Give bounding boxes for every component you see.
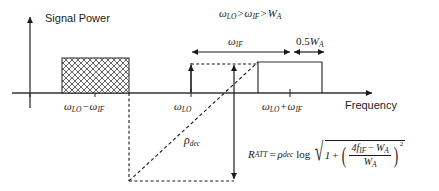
usb-omega-lo-sub: LO [270,105,280,114]
num-w: W [376,142,384,153]
lsb-minus: − [81,100,89,112]
slope-line [129,62,258,181]
fraction-numerator: 4fIF−WA [349,142,390,156]
condition-w: W [268,7,277,19]
formula-log: log [293,148,311,160]
condition-note: ωLO>ωIF>WA [219,8,281,20]
omega-if-span-sub: IF [236,40,243,49]
omega-if-span-base: ω [228,35,236,47]
lsb-omega-if-sub: IF [97,105,104,114]
half-wa-prefix: 0.5 [296,35,310,47]
open-paren: ( [342,147,346,164]
tick-label-lo-center: ωLO [174,101,191,113]
formula-squared-group: ( 4fIF−WA WA ) 2 [340,142,403,168]
lsb-omega-lo: ω [64,100,72,112]
attenuation-formula: RATT=ρdeclog √ 1+ ( 4fIF−WA WA ) 2 [248,140,405,168]
condition-gt-2: > [259,7,267,19]
den-w: W [364,156,372,167]
formula-fraction: 4fIF−WA WA [349,142,390,168]
condition-omega-lo-sub: LO [227,12,237,21]
slope-label: ρdec [184,134,200,147]
formula-rho-sub: dec [283,150,293,159]
num-w-sub: A [384,146,389,155]
formula-exponent: 2 [400,140,404,148]
usb-omega-lo: ω [262,100,270,112]
close-paren: ) [394,147,398,164]
condition-w-sub: A [277,12,282,21]
num-minus: − [366,142,376,153]
formula-equals: = [267,148,277,160]
formula-plus: + [330,149,340,161]
condition-omega-lo: ω [219,7,227,19]
tick-label-lower-sideband: ωLO−ωIF [64,101,104,113]
lsb-omega-lo-sub: LO [72,105,82,114]
fraction-denominator: WA [362,156,379,169]
rho-sub: dec [190,139,200,148]
omega-if-span-label: ωIF [228,36,243,48]
formula-radical: √ 1+ ( 4fIF−WA WA ) 2 [312,140,405,168]
radical-sign-glyph: √ [315,139,324,167]
half-wa-base: W [310,35,319,47]
lo-omega: ω [174,100,182,112]
formula-ratt-base: R [248,148,255,160]
spectrum-diagram: Signal Power Frequency ωLO>ωIF>WA ωIF 0.… [0,0,439,191]
usb-omega-if-sub: IF [295,105,302,114]
x-axis-label: Frequency [345,100,397,111]
solid-signal-block [258,62,322,93]
usb-plus: + [279,100,287,112]
den-w-sub: A [372,159,377,168]
radical-contents: 1+ ( 4fIF−WA WA ) 2 [325,140,406,168]
formula-ratt-sub: ATT [255,150,268,159]
lo-omega-sub: LO [182,105,192,114]
half-wa-sub: A [319,40,324,49]
hatched-band [62,58,129,93]
half-wa-span-label: 0.5WA [296,36,324,48]
y-axis-label: Signal Power [45,13,110,24]
condition-gt-1: > [236,7,244,19]
tick-label-upper-sideband: ωLO+ωIF [262,101,302,113]
